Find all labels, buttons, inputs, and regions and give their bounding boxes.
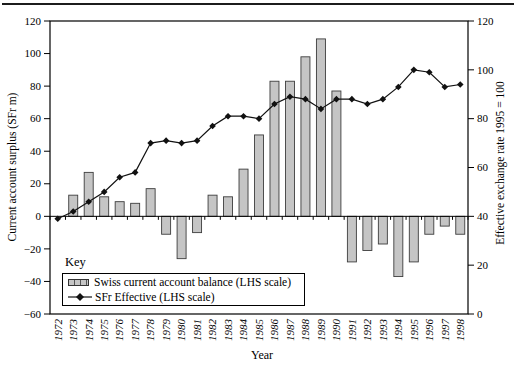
svg-text:1987: 1987 [284, 319, 296, 342]
svg-text:1972: 1972 [52, 319, 64, 342]
bar-1988 [301, 57, 310, 217]
x-axis-title: Year [251, 348, 273, 363]
legend-heading: Key [65, 255, 86, 270]
bar-1974 [84, 172, 93, 216]
svg-text:20: 20 [30, 177, 42, 189]
svg-text:80: 80 [477, 112, 489, 124]
svg-text:1996: 1996 [423, 319, 435, 342]
bar-series [69, 39, 465, 277]
bar-1995 [409, 216, 418, 262]
bar-1987 [285, 81, 294, 216]
diamond-marker [225, 113, 232, 120]
svg-text:1983: 1983 [222, 319, 234, 342]
svg-text:1990: 1990 [330, 319, 342, 342]
right-axis-ticks: 020406080100120 [468, 15, 494, 320]
left-axis-title: Current account surplus (SFr m) [6, 93, 18, 242]
svg-text:100: 100 [25, 47, 42, 59]
svg-text:1994: 1994 [392, 319, 404, 342]
bar-1984 [239, 169, 248, 216]
svg-text:1982: 1982 [206, 319, 218, 342]
svg-text:1979: 1979 [160, 319, 172, 342]
svg-text:80: 80 [30, 80, 42, 92]
svg-text:0: 0 [477, 308, 483, 320]
bar-1982 [208, 195, 217, 216]
svg-text:120: 120 [477, 15, 494, 27]
svg-text:1975: 1975 [98, 319, 110, 342]
svg-text:1991: 1991 [346, 319, 358, 341]
svg-text:40: 40 [477, 210, 489, 222]
svg-text:1988: 1988 [299, 319, 311, 342]
bar-1975 [100, 197, 109, 217]
svg-text:1976: 1976 [113, 319, 125, 342]
svg-text:1985: 1985 [253, 319, 265, 342]
svg-text:−60: −60 [24, 308, 42, 320]
diamond-marker [163, 137, 170, 144]
bar-1976 [115, 202, 124, 217]
bar-1983 [224, 197, 233, 217]
svg-text:60: 60 [477, 161, 489, 173]
bar-1998 [456, 216, 465, 234]
svg-text:1993: 1993 [377, 319, 389, 342]
legend-item-label: SFr Effective (LHS scale) [95, 291, 215, 304]
diamond-marker [240, 113, 247, 120]
svg-text:120: 120 [25, 15, 42, 27]
svg-text:60: 60 [30, 112, 42, 124]
svg-text:−20: −20 [24, 243, 42, 255]
chart-canvas: −60−40−200204060801001200204060801001201… [0, 0, 516, 371]
svg-text:0: 0 [36, 210, 42, 222]
svg-text:1978: 1978 [144, 319, 156, 342]
svg-text:1973: 1973 [67, 319, 79, 342]
legend-item-bars: Swiss current account balance (LHS scale… [68, 275, 300, 289]
category-axis [50, 216, 468, 220]
diamond-marker [178, 140, 185, 147]
bar-1979 [162, 216, 171, 234]
bar-1991 [347, 216, 356, 262]
bar-1994 [394, 216, 403, 276]
svg-text:1986: 1986 [268, 319, 280, 342]
bar-1997 [440, 216, 449, 226]
right-axis-title: Effective exchange rate 1995 = 100 [494, 81, 506, 245]
diamond-marker [349, 96, 356, 103]
bar-1977 [131, 203, 140, 216]
legend-item-line: SFr Effective (LHS scale) [68, 290, 300, 304]
bar-swatch-icon [68, 279, 89, 286]
svg-text:1992: 1992 [361, 319, 373, 342]
svg-text:1989: 1989 [315, 319, 327, 342]
svg-text:100: 100 [477, 64, 494, 76]
bar-1996 [425, 216, 434, 234]
svg-text:20: 20 [477, 259, 489, 271]
year-labels: 1972197319741975197619771978197919801981… [52, 319, 467, 342]
bar-1993 [378, 216, 387, 244]
diamond-marker [364, 101, 371, 108]
diamond-marker [457, 81, 464, 88]
line-diamond-swatch-icon [68, 292, 92, 302]
svg-text:40: 40 [30, 145, 42, 157]
svg-text:1998: 1998 [454, 319, 466, 342]
figure-page: −60−40−200204060801001200204060801001201… [0, 0, 516, 371]
svg-text:1981: 1981 [191, 319, 203, 341]
diamond-marker [147, 140, 154, 147]
svg-text:1995: 1995 [408, 319, 420, 342]
svg-text:1977: 1977 [129, 319, 141, 342]
bar-1980 [177, 216, 186, 258]
bar-1985 [255, 135, 264, 216]
bar-1990 [332, 91, 341, 216]
legend: Swiss current account balance (LHS scale… [62, 273, 305, 306]
diamond-marker [132, 169, 139, 176]
legend-item-label: Swiss current account balance (LHS scale… [94, 276, 291, 289]
svg-text:1974: 1974 [83, 319, 95, 342]
bar-1989 [316, 39, 325, 216]
svg-text:1997: 1997 [439, 319, 451, 342]
svg-text:−40: −40 [24, 275, 42, 287]
left-axis-ticks: −60−40−20020406080100120 [24, 15, 50, 320]
svg-text:1984: 1984 [237, 319, 249, 342]
bar-1992 [363, 216, 372, 250]
svg-text:1980: 1980 [175, 319, 187, 342]
bar-1981 [193, 216, 202, 232]
bar-1978 [146, 189, 155, 217]
